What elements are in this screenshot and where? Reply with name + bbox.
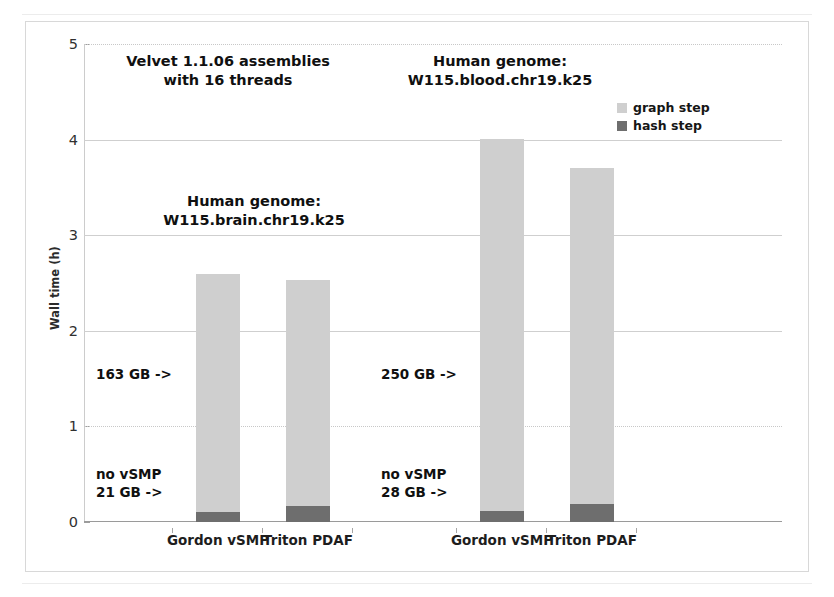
legend-label-hash-step: hash step xyxy=(633,118,702,133)
y-tick-2: 2 xyxy=(38,324,78,339)
bar-blood-triton-pdaf[interactable] xyxy=(570,168,614,522)
annotation-title-block: Velvet 1.1.06 assemblies with 16 threads xyxy=(126,52,330,90)
bar-blood-gordon-vsmp[interactable] xyxy=(480,139,524,523)
bar-segment-hash-step xyxy=(196,512,240,522)
y-axis-ticks: 5 4 3 2 1 0 xyxy=(38,44,78,522)
annotation-left-hash-memory: no vSMP 21 GB -> xyxy=(96,466,162,501)
annotation-brain-label: Human genome: W115.brain.chr19.k25 xyxy=(163,192,344,230)
annotation-blood-label: Human genome: W115.blood.chr19.k25 xyxy=(408,52,593,90)
legend-item-hash-step[interactable]: hash step xyxy=(617,118,710,133)
legend-label-graph-step: graph step xyxy=(633,100,710,115)
bar-segment-graph-step xyxy=(196,274,240,512)
bar-segment-graph-step xyxy=(480,139,524,511)
gridline-3 xyxy=(84,235,782,236)
bar-segment-graph-step xyxy=(286,280,330,506)
gridline-1 xyxy=(84,426,782,427)
legend: graph step hash step xyxy=(617,100,710,136)
annotation-left-graph-memory: 163 GB -> xyxy=(96,366,172,384)
x-label-blood-triton-pdaf: Triton PDAF xyxy=(547,532,637,548)
legend-item-graph-step[interactable]: graph step xyxy=(617,100,710,115)
y-tick-3: 3 xyxy=(38,228,78,243)
bar-segment-hash-step xyxy=(480,511,524,523)
x-label-brain-triton-pdaf: Triton PDAF xyxy=(263,532,353,548)
legend-swatch-hash-step-icon xyxy=(617,121,627,131)
bar-segment-graph-step xyxy=(570,168,614,504)
bar-brain-triton-pdaf[interactable] xyxy=(286,280,330,522)
scan-edge-bottom xyxy=(22,583,812,584)
x-label-brain-gordon-vsmp: Gordon vSMP xyxy=(167,532,269,548)
y-tick-0: 0 xyxy=(38,515,78,530)
x-axis-line xyxy=(84,521,782,522)
y-tick-5: 5 xyxy=(38,37,78,52)
y-tick-4: 4 xyxy=(38,132,78,147)
x-label-blood-gordon-vsmp: Gordon vSMP xyxy=(451,532,553,548)
y-axis-line xyxy=(84,44,85,522)
x-axis-labels: Gordon vSMP Triton PDAF Gordon vSMP Trit… xyxy=(84,528,782,550)
scan-edge-top xyxy=(22,14,812,15)
bar-segment-hash-step xyxy=(286,506,330,522)
bar-brain-gordon-vsmp[interactable] xyxy=(196,274,240,522)
legend-swatch-graph-step-icon xyxy=(617,103,627,113)
gridline-2 xyxy=(84,331,782,332)
y-tickmark-0 xyxy=(84,522,90,523)
y-tick-1: 1 xyxy=(38,419,78,434)
chart-screenshot: Wall time (h) 5 4 3 2 1 0 xyxy=(0,0,834,597)
bar-segment-hash-step xyxy=(570,504,614,522)
annotation-right-hash-memory: no vSMP 28 GB -> xyxy=(381,466,447,501)
annotation-right-graph-memory: 250 GB -> xyxy=(381,366,457,384)
gridline-5 xyxy=(84,44,782,45)
gridline-4 xyxy=(84,140,782,141)
